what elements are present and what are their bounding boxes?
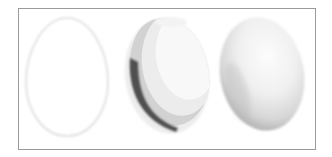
egg-outline [26,18,108,136]
eggs-illustration [0,0,332,157]
egg-flat-tones [117,7,221,139]
illustration-canvas [0,0,332,157]
egg-gradient [211,11,314,138]
